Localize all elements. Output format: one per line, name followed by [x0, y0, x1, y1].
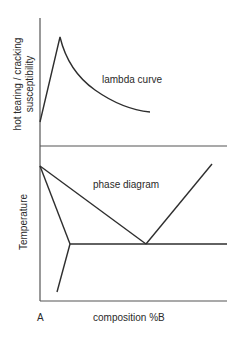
solvus-line: [57, 244, 70, 292]
phase-diagram-label: phase diagram: [93, 179, 159, 190]
liquidus-right-line: [146, 164, 212, 244]
lambda-curve-panel: lambda curve hot tearing / cracking susc…: [12, 18, 227, 146]
susceptibility-ylabel-line1: hot tearing / cracking: [12, 38, 23, 131]
lambda-curve-label: lambda curve: [102, 74, 162, 85]
diagram-canvas: lambda curve hot tearing / cracking susc…: [0, 0, 240, 338]
origin-label-a: A: [37, 312, 44, 323]
susceptibility-ylabel-line2: susceptibility: [24, 56, 35, 113]
liquidus-left-line: [40, 166, 146, 244]
temperature-ylabel: Temperature: [18, 193, 29, 250]
phase-diagram-panel: phase diagram Temperature A composition …: [18, 146, 227, 323]
composition-xlabel: composition %B: [93, 312, 165, 323]
